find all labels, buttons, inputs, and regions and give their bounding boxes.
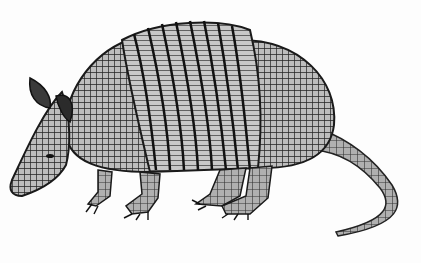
front-leg-right [126,172,160,214]
legs [88,166,272,214]
armadillo-illustration [0,0,421,263]
illustration-canvas [0,0,421,263]
eye [46,154,54,158]
ear-back [30,78,51,108]
front-leg-left [88,170,112,206]
